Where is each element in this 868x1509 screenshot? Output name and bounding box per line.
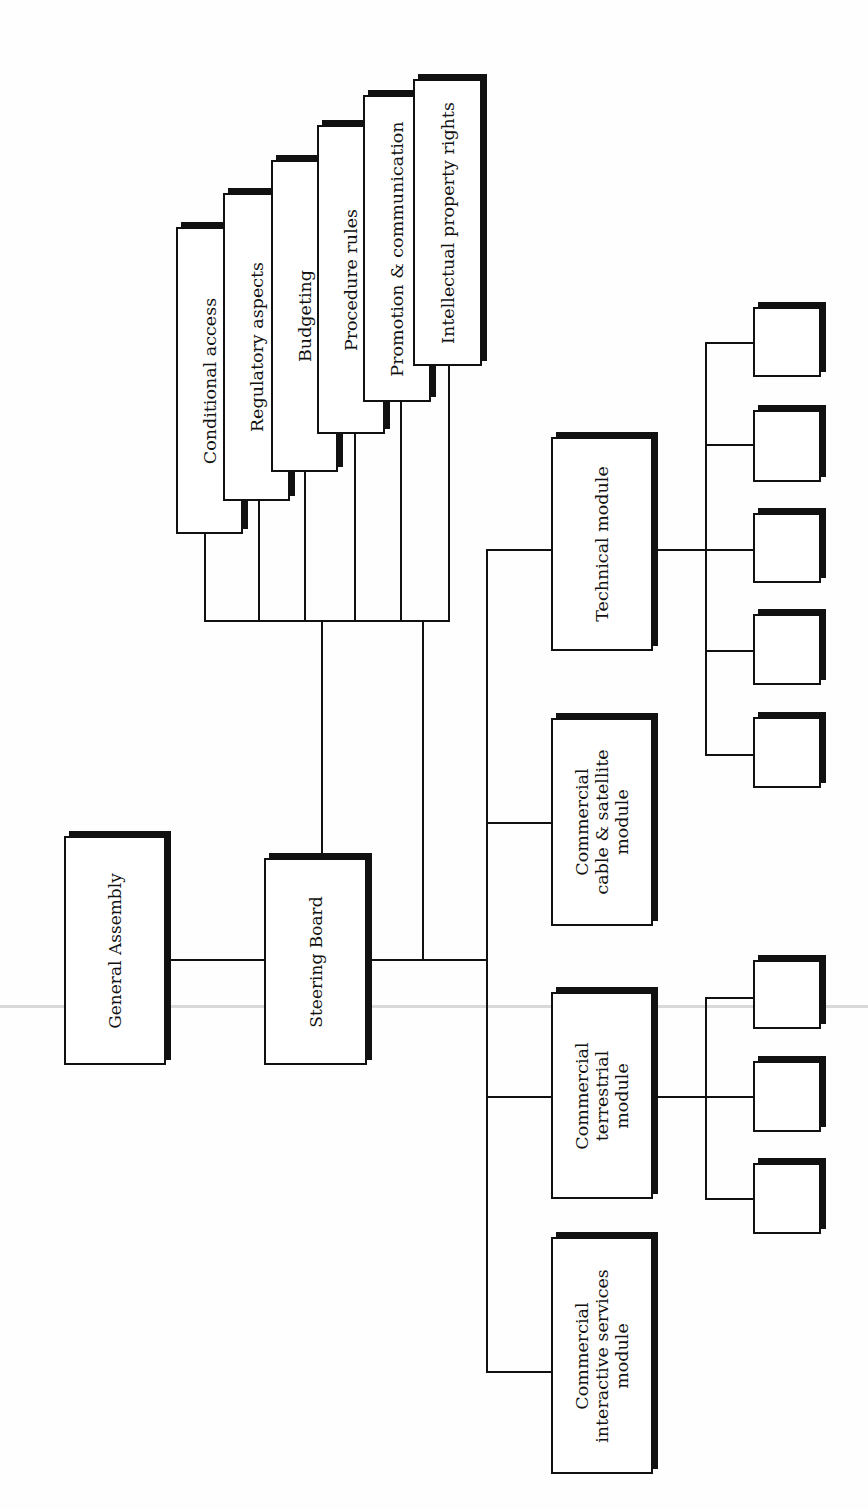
committee-drop-6 xyxy=(448,365,450,621)
cable-satellite-module-box: Commercial cable & satellite module xyxy=(551,718,653,926)
committee-intellectual-property-rights: Intellectual property rights xyxy=(413,79,482,366)
committee-drop-3 xyxy=(304,471,306,621)
technical-module-box: Technical module xyxy=(551,437,653,651)
technical-sub-connector-2 xyxy=(705,444,753,446)
technical-sub-connector-3 xyxy=(705,549,753,551)
committee-drop-5 xyxy=(400,401,402,621)
interactive-services-module-box: Commercial interactive services module xyxy=(551,1237,653,1474)
general-assembly-label: General Assembly xyxy=(106,873,125,1029)
connector-technical-subbus xyxy=(652,549,706,551)
committee-drop-1 xyxy=(204,533,206,621)
connector-terrestrial-subbus xyxy=(652,1096,706,1098)
committee-label: Regulatory aspects xyxy=(247,262,266,432)
terrestrial-subbus xyxy=(705,997,707,1200)
terrestrial-sub-connector-2 xyxy=(705,1096,753,1098)
committee-bus xyxy=(204,620,450,622)
connector-sb-committees-1 xyxy=(321,620,323,860)
general-assembly-box: General Assembly xyxy=(64,836,166,1065)
terrestrial-subgroup-box xyxy=(753,960,821,1029)
connector-ga-sb xyxy=(165,959,265,961)
terrestrial-subgroup-box xyxy=(753,1061,821,1132)
steering-board-box: Steering Board xyxy=(264,858,367,1065)
terrestrial-module-box: Commercial terrestrial module xyxy=(551,992,653,1199)
technical-subgroup-box xyxy=(753,307,821,377)
technical-sub-connector-1 xyxy=(705,342,753,344)
connector-interactive xyxy=(486,1371,552,1373)
connector-technical xyxy=(486,549,552,551)
terrestrial-sub-connector-3 xyxy=(705,1198,753,1200)
connector-sb-bus xyxy=(366,959,488,961)
committee-label: Conditional access xyxy=(200,297,219,463)
steering-board-label: Steering Board xyxy=(306,896,325,1027)
interactive-services-module-label: Commercial interactive services module xyxy=(572,1269,632,1443)
committee-label: Procedure rules xyxy=(342,208,361,350)
committee-drop-4 xyxy=(354,433,356,621)
terrestrial-sub-connector-1 xyxy=(705,997,753,999)
terrestrial-module-label: Commercial terrestrial module xyxy=(572,1042,632,1149)
technical-sub-connector-5 xyxy=(705,754,753,756)
cable-satellite-module-label: Commercial cable & satellite module xyxy=(572,749,632,894)
connector-sb-committees-2 xyxy=(422,620,424,960)
terrestrial-subgroup-box xyxy=(753,1163,821,1234)
module-bus xyxy=(486,549,488,1373)
technical-subgroup-box xyxy=(753,513,821,583)
org-chart: General Assembly Steering Board Conditio… xyxy=(0,0,868,1509)
committee-label: Budgeting xyxy=(295,270,314,362)
technical-subgroup-box xyxy=(753,717,821,788)
technical-module-label: Technical module xyxy=(592,466,612,622)
technical-sub-connector-4 xyxy=(705,650,753,652)
committee-drop-2 xyxy=(258,500,260,621)
connector-terrestrial xyxy=(486,1096,552,1098)
technical-subgroup-box xyxy=(753,614,821,685)
technical-subgroup-box xyxy=(753,410,821,482)
connector-cable-satellite xyxy=(486,822,552,824)
committee-label: Promotion & communication xyxy=(388,121,407,376)
committee-label: Intellectual property rights xyxy=(438,102,457,344)
